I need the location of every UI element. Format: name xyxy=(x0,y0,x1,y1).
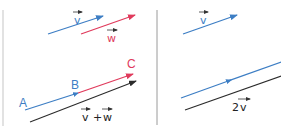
svg-text:v: v xyxy=(82,111,89,124)
point-b-label: B xyxy=(71,78,79,92)
right-vector-v-label: v xyxy=(199,12,208,27)
point-a-label: A xyxy=(19,96,27,110)
double-v-label: 2 v xyxy=(232,99,250,114)
svg-text:+: + xyxy=(93,111,102,124)
point-c-label: C xyxy=(127,57,136,71)
right-v-second-line xyxy=(229,61,281,81)
vector-ab-arrow xyxy=(25,93,78,110)
vector-w-label: w xyxy=(107,30,117,45)
sum-label: v + w xyxy=(81,109,112,124)
vector-bc-arrow xyxy=(78,74,133,93)
svg-text:2: 2 xyxy=(232,101,239,114)
vector-diagram: v w A B C v + w v 2 v xyxy=(0,0,281,140)
svg-text:w: w xyxy=(107,32,116,45)
vector-v-label: v xyxy=(73,12,82,27)
svg-text:v: v xyxy=(240,101,247,114)
svg-text:v: v xyxy=(200,14,207,27)
right-vector-v-arrow xyxy=(183,15,237,34)
svg-text:v: v xyxy=(74,14,81,27)
svg-text:w: w xyxy=(103,111,112,124)
right-v-first-arrow xyxy=(181,80,231,98)
